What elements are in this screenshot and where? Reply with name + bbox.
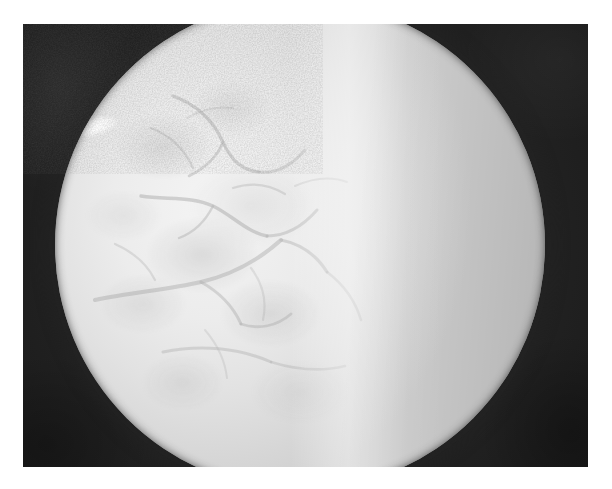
page-canvas [0, 0, 612, 489]
aperture-inner-vignette [55, 24, 545, 467]
photograph-frame [23, 24, 588, 467]
circular-aperture [55, 24, 545, 467]
photo-caption [0, 0, 1, 1]
